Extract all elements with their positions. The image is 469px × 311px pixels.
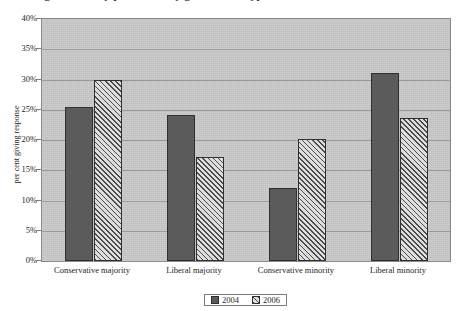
x-axis-tick-label: Conservative majority xyxy=(54,265,130,275)
bar-2006-liberal-minority[interactable] xyxy=(400,118,428,261)
bars-layer xyxy=(42,19,450,261)
legend-label-2006: 2006 xyxy=(263,296,280,305)
legend-item-2006[interactable]: 2006 xyxy=(252,296,280,305)
y-axis-tick-label: 40% xyxy=(21,13,37,23)
bar-2006-conservative-minority[interactable] xyxy=(298,139,326,261)
bar-2006-liberal-majority[interactable] xyxy=(196,157,224,261)
x-axis-tick-label: Liberal minority xyxy=(370,265,426,275)
bar-2004-liberal-minority[interactable] xyxy=(371,73,399,261)
x-axis-tick-label: Conservative minority xyxy=(258,265,334,275)
x-axis-labels: Conservative majorityLiberal majorityCon… xyxy=(41,265,451,279)
legend-swatch-2004-icon xyxy=(211,296,219,304)
bar-group xyxy=(371,19,428,261)
legend-swatch-2006-icon xyxy=(252,296,260,304)
bar-group xyxy=(65,19,122,261)
bar-2004-liberal-majority[interactable] xyxy=(167,115,195,261)
bar-2004-conservative-majority[interactable] xyxy=(65,107,93,261)
bar-group xyxy=(269,19,326,261)
y-axis-tick-label: 10% xyxy=(21,195,37,205)
plot-area xyxy=(41,18,451,262)
bar-group xyxy=(167,19,224,261)
y-axis-tick-label: 15% xyxy=(21,164,37,174)
legend-item-2004[interactable]: 2004 xyxy=(211,296,239,305)
y-axis-tick-label: 25% xyxy=(21,104,37,114)
y-axis-tick-label: 30% xyxy=(21,74,37,84)
y-axis: per cent giving response 0%5%10%15%20%25… xyxy=(0,0,41,280)
bar-chart: Figure 4: Party preference by government… xyxy=(0,0,469,311)
y-axis-tick-label: 35% xyxy=(21,43,37,53)
y-axis-title: per cent giving response xyxy=(12,85,21,205)
page-title: Figure 4: Party preference by government… xyxy=(34,0,268,1)
y-axis-tick-label: 20% xyxy=(21,134,37,144)
chart-title-strip: Figure 4: Party preference by government… xyxy=(0,0,469,12)
legend-label-2004: 2004 xyxy=(222,296,239,305)
x-axis-tick-label: Liberal majority xyxy=(166,265,221,275)
chart-legend: 2004 2006 xyxy=(204,294,287,306)
bar-2004-conservative-minority[interactable] xyxy=(269,188,297,261)
bar-2006-conservative-majority[interactable] xyxy=(94,80,122,262)
